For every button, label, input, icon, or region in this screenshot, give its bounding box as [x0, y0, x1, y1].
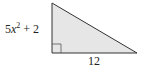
- horizontal-leg-label: 12: [88, 55, 100, 67]
- vertical-leg-label: 5x2 + 2: [5, 23, 39, 35]
- triangle: [52, 3, 137, 53]
